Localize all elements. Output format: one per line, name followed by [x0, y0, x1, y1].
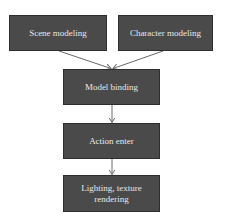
edge-character-to-binding — [113, 51, 163, 69]
edge-scene-to-binding — [59, 51, 111, 69]
node-action-enter: Action enter — [63, 123, 160, 159]
node-label: Model binding — [85, 82, 138, 93]
node-character-modeling: Character modeling — [118, 15, 213, 51]
node-label: Action enter — [89, 136, 134, 147]
node-label: Lighting, texture rendering — [76, 183, 147, 205]
node-model-binding: Model binding — [63, 69, 160, 105]
node-scene-modeling: Scene modeling — [9, 15, 107, 51]
node-lighting-texture-rendering: Lighting, texture rendering — [63, 175, 160, 212]
node-label: Scene modeling — [29, 28, 87, 39]
node-label: Character modeling — [130, 28, 201, 39]
flowchart-diagram: Scene modeling Character modeling Model … — [0, 0, 225, 220]
